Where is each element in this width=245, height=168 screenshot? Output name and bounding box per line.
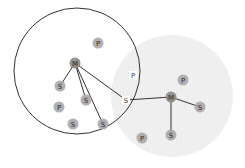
node-parked-pb: P — [129, 71, 137, 80]
node-parked-p2: P — [54, 102, 65, 113]
node-label: M — [72, 60, 78, 68]
node-slave-s3: S — [68, 119, 79, 130]
node-label: S — [58, 83, 63, 91]
node-label: M — [168, 94, 174, 102]
scatternet-diagram: MPSSPSSPSMPSSP — [0, 0, 245, 168]
node-label: P — [181, 77, 185, 85]
node-label: P — [131, 72, 135, 80]
node-slave-s5: S — [195, 102, 206, 113]
node-slave-s6: S — [166, 130, 177, 141]
node-slave-s4: S — [98, 119, 109, 130]
node-label: S — [169, 132, 174, 140]
node-master-m2: M — [166, 92, 177, 103]
piconet-regions — [14, 8, 233, 157]
node-slave-s1: S — [55, 81, 66, 92]
diagram-canvas: MPSSPSSPSMPSSP — [0, 0, 245, 168]
node-label: P — [140, 135, 144, 143]
node-parked-p1: P — [93, 38, 104, 49]
node-label: P — [96, 40, 100, 48]
node-bridge-slave-sb: S — [122, 96, 130, 105]
node-label: S — [71, 121, 76, 129]
edge-m1-s4 — [75, 63, 103, 124]
node-parked-p4: P — [137, 133, 148, 144]
node-parked-p3: P — [178, 75, 189, 86]
node-slave-s2: S — [81, 95, 92, 106]
node-master-m1: M — [70, 58, 81, 69]
edge-m1-s2 — [75, 63, 86, 100]
node-label: S — [198, 104, 203, 112]
node-label: S — [124, 97, 129, 105]
node-label: S — [101, 121, 106, 129]
node-label: S — [84, 97, 89, 105]
node-label: P — [57, 104, 61, 112]
